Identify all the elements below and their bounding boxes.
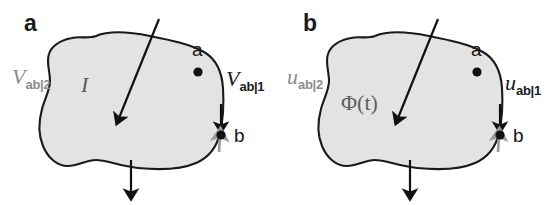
left-potential-label-a: Vab|2: [12, 66, 50, 88]
panel-b-graphics: [279, 0, 558, 205]
left-potential-base-b: u: [287, 64, 298, 89]
point-a-marker: [193, 67, 202, 76]
region-current-label-a: I: [81, 74, 88, 96]
panel-b: b a b uab|2 uab|1: [279, 0, 558, 205]
right-potential-sub-a: ab|1: [239, 79, 264, 94]
left-potential-label-b: uab|2: [287, 66, 323, 88]
left-potential-sub-b: ab|2: [298, 77, 323, 92]
figure-root: a a: [0, 0, 559, 205]
point-b-marker: [495, 130, 504, 139]
point-b-label: b: [513, 126, 524, 145]
right-potential-base-b: u: [505, 70, 516, 95]
point-b-marker: [216, 130, 225, 139]
left-potential-base-a: V: [12, 64, 25, 89]
point-a-label: a: [471, 40, 482, 59]
right-potential-base-a: V: [226, 66, 239, 91]
right-potential-label-a: Vab|1: [226, 68, 264, 90]
right-potential-sub-b: ab|1: [516, 83, 541, 98]
point-a-label: a: [192, 40, 203, 59]
panel-a-graphics: [0, 0, 279, 205]
right-potential-label-b: uab|1: [505, 72, 541, 94]
left-potential-sub-a: ab|2: [25, 77, 50, 92]
point-b-label: b: [234, 126, 245, 145]
region-flux-label-b: Φ(t): [341, 92, 378, 114]
panel-a: a a: [0, 0, 279, 205]
point-a-marker: [472, 67, 481, 76]
